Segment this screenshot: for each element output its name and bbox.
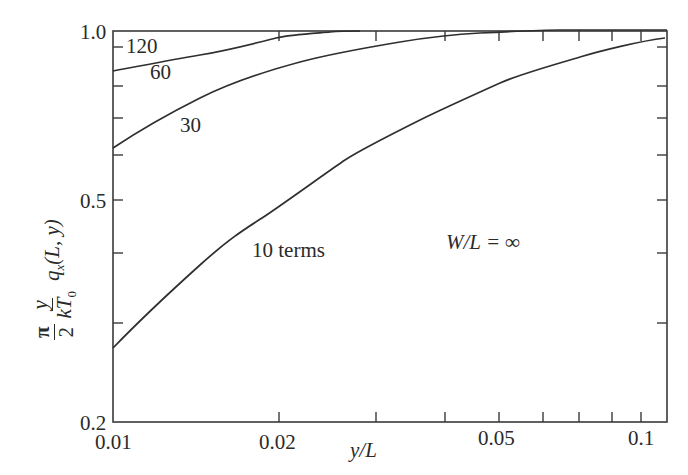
x-axis-ticks — [279, 31, 641, 422]
curve-label-10-terms: 10 terms — [252, 240, 325, 261]
x-tick-label-0-05: 0.05 — [478, 428, 515, 449]
annotation-w-over-l: W/L = ∞ — [446, 232, 520, 253]
y-axis-label: π 2 y kT0 qx(L, y) — [30, 219, 78, 340]
y-tick-label-1-0: 1.0 — [80, 22, 106, 43]
qx-function: qx(L, y) — [40, 219, 68, 281]
curve-label-30: 30 — [180, 115, 201, 136]
x-axis-label: y/L — [350, 440, 377, 461]
curve-label-120: 120 — [126, 36, 158, 57]
plot-frame — [113, 31, 667, 422]
y-over-kt0: y kT0 — [30, 291, 78, 319]
x-tick-label-0-01: 0.01 — [95, 432, 132, 453]
curve-label-60: 60 — [150, 62, 171, 83]
y-tick-label-0-5: 0.5 — [80, 191, 106, 212]
chart-canvas — [0, 0, 688, 475]
pi-over-2: π 2 — [32, 324, 77, 340]
x-tick-label-0-1: 0.1 — [628, 428, 654, 449]
y-axis-ticks — [113, 47, 667, 323]
curve-10-terms — [113, 38, 665, 348]
x-tick-label-0-02: 0.02 — [259, 432, 296, 453]
curves — [113, 30, 667, 348]
